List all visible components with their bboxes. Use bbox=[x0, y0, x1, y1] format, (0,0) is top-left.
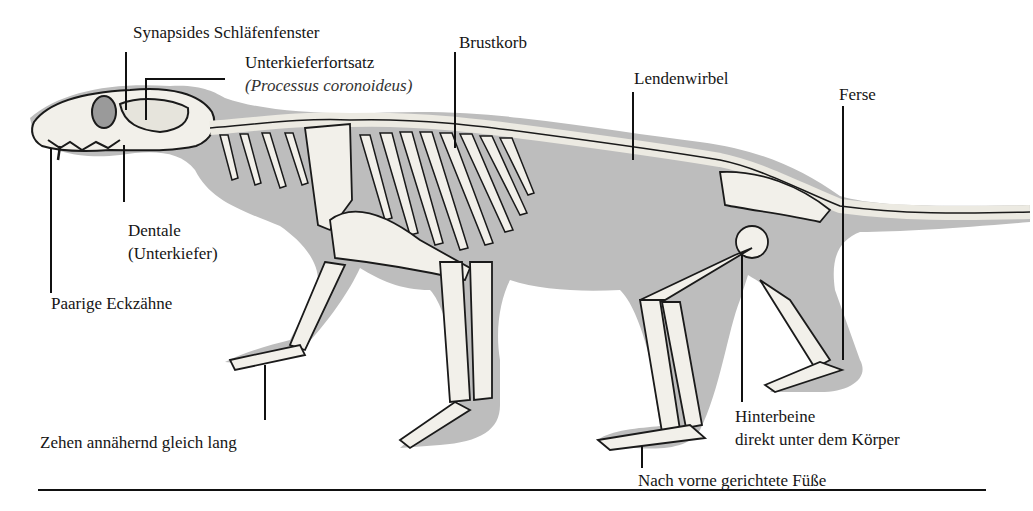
label-lumbar-vertebrae: Lendenwirbel bbox=[634, 68, 728, 89]
label-dentary-sub: (Unterkiefer) bbox=[128, 243, 218, 264]
label-toes-equal-length: Zehen annähernd gleich lang bbox=[40, 432, 237, 453]
label-coronoid-process: Unterkieferfortsatz bbox=[245, 52, 374, 73]
skeleton-diagram: Synapsides Schläfenfenster Unterkieferfo… bbox=[0, 0, 1033, 511]
label-ribcage: Brustkorb bbox=[459, 32, 527, 53]
label-dentary: Dentale bbox=[128, 220, 181, 241]
label-heel: Ferse bbox=[839, 84, 876, 105]
label-forward-facing-feet: Nach vorne gerichtete Füße bbox=[638, 470, 826, 491]
label-paired-canines: Paarige Eckzähne bbox=[51, 293, 172, 314]
label-hindlegs-sub: direkt unter dem Körper bbox=[735, 429, 900, 450]
label-synapsid-temporal-window: Synapsides Schläfenfenster bbox=[133, 22, 319, 43]
bottom-rule bbox=[38, 489, 986, 491]
label-coronoid-process-latin: (Processus coronoideus) bbox=[245, 75, 412, 96]
label-hindlegs: Hinterbeine bbox=[735, 406, 815, 427]
